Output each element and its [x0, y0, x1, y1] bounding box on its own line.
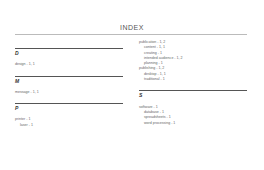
- section-letter: P: [15, 106, 123, 111]
- right-column: publication - 1, 2 content - 1, 1 creati…: [139, 40, 247, 126]
- section-divider: [15, 48, 123, 49]
- section-divider: [15, 76, 123, 77]
- title-divider: [15, 34, 247, 35]
- section-divider: [139, 90, 247, 91]
- section-letter: M: [15, 79, 123, 84]
- index-subentry: laser - 1: [15, 123, 123, 128]
- left-column: D design - 1, 1 M message - 1, 1 P print…: [15, 48, 123, 128]
- page-title: INDEX: [0, 24, 264, 31]
- index-subentry: word processing - 1: [139, 121, 247, 126]
- section-divider: [15, 103, 123, 104]
- section-letter: S: [139, 93, 247, 98]
- section-letter: D: [15, 51, 123, 56]
